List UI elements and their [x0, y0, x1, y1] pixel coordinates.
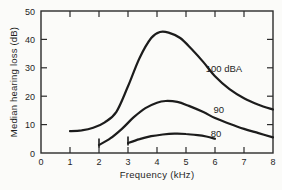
x-tick-label: 4	[154, 157, 159, 167]
y-tick-label: 30	[25, 63, 35, 73]
y-tick-label: 10	[25, 120, 35, 130]
y-tick-label: 20	[25, 92, 35, 102]
hearing-loss-chart: 01234567801020304050100 dBA9080	[0, 0, 282, 190]
curve-80	[128, 134, 215, 143]
series-label: 100 dBA	[206, 63, 243, 74]
x-axis-title: Frequency (kHz)	[97, 169, 217, 180]
x-tick-label: 7	[241, 157, 246, 167]
y-tick-label: 40	[25, 35, 35, 45]
hearing-loss-figure: 01234567801020304050100 dBA9080 Frequenc…	[0, 0, 282, 190]
curve-90	[99, 101, 273, 145]
x-tick-label: 8	[270, 157, 275, 167]
y-axis-title: Median hearing loss (dB)	[8, 11, 20, 153]
y-tick-label: 0	[30, 149, 35, 159]
series-label: 80	[211, 128, 222, 139]
x-tick-label: 1	[67, 157, 72, 167]
y-tick-label: 50	[25, 7, 35, 17]
x-tick-label: 0	[38, 157, 43, 167]
x-tick-label: 2	[96, 157, 101, 167]
curve-100-dba	[70, 32, 273, 132]
x-tick-label: 6	[212, 157, 217, 167]
series-label: 90	[214, 104, 225, 115]
x-tick-label: 3	[125, 157, 130, 167]
x-tick-label: 5	[183, 157, 188, 167]
